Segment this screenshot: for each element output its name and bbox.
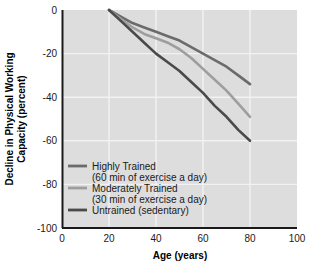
x-tick-100: 100 [289, 233, 306, 244]
legend-sublabel-highly-trained: (60 min of exercise a day) [92, 172, 207, 183]
y-tick-minus20: -20 [43, 48, 58, 59]
y-tick-minus40: -40 [43, 92, 58, 103]
x-tick-80: 80 [244, 233, 256, 244]
y-axis-title-line2: Capacity (percent) [16, 75, 27, 162]
y-tick-minus80: -80 [43, 179, 58, 190]
y-tick-minus60: -60 [43, 135, 58, 146]
x-axis-title: Age (years) [153, 250, 207, 261]
legend-label-highly-trained: Highly Trained [92, 161, 156, 172]
y-axis-title: Decline in Physical Working Capacity (pe… [4, 52, 27, 185]
legend-label-moderately-trained: Moderately Trained [92, 183, 178, 194]
x-tick-20: 20 [103, 233, 115, 244]
x-tick-0: 0 [59, 233, 65, 244]
decline-in-physical-working-capacity-chart: 0 -20 -40 -60 -80 -100 0 20 40 60 80 100… [0, 0, 321, 273]
chart-figure: 0 -20 -40 -60 -80 -100 0 20 40 60 80 100… [0, 0, 321, 273]
legend-sublabel-moderately-trained: (30 min of exercise a day) [92, 194, 207, 205]
y-axis-title-line1: Decline in Physical Working [4, 52, 15, 185]
legend-label-untrained: Untrained (sedentary) [92, 205, 189, 216]
x-axis-tick-labels: 0 20 40 60 80 100 [59, 233, 306, 244]
y-tick-minus100: -100 [37, 223, 57, 234]
x-tick-60: 60 [197, 233, 209, 244]
y-axis-tick-labels: 0 -20 -40 -60 -80 -100 [37, 5, 57, 234]
x-tick-40: 40 [150, 233, 162, 244]
y-tick-0: 0 [51, 5, 57, 16]
